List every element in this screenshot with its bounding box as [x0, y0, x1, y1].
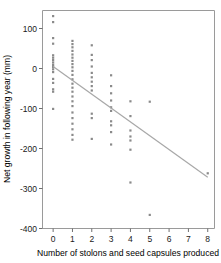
data-point [110, 131, 112, 133]
x-tick-label: 8 [205, 234, 210, 244]
data-point [52, 91, 54, 93]
data-point [129, 129, 131, 131]
y-tick-label: -200 [20, 144, 37, 154]
y-axis-title: Net growth in following year (mm) [2, 55, 12, 183]
data-point [71, 53, 73, 55]
data-point [71, 123, 73, 125]
x-tick-label: 3 [109, 234, 114, 244]
data-point [71, 57, 73, 59]
data-point [52, 71, 54, 73]
data-point [91, 72, 93, 74]
data-point [91, 117, 93, 119]
data-point [129, 181, 131, 183]
data-point [52, 78, 54, 80]
data-point [71, 128, 73, 130]
x-tick-label: 7 [186, 234, 191, 244]
data-point [52, 59, 54, 61]
data-point [91, 89, 93, 91]
data-point [91, 44, 93, 46]
x-tick-label: 4 [128, 234, 133, 244]
x-tick-label: 6 [167, 234, 172, 244]
data-point [71, 111, 73, 113]
x-axis-title: Number of stolons and seed capsules prod… [37, 248, 219, 258]
data-point [91, 59, 93, 61]
data-point [129, 135, 131, 137]
data-point [71, 95, 73, 97]
y-axis-ticks: 1000-100-200-300-400 [20, 24, 43, 234]
data-point [71, 117, 73, 119]
data-point [52, 68, 54, 70]
data-point [71, 46, 73, 48]
data-point [52, 15, 54, 17]
data-point [52, 108, 54, 110]
plot-canvas: 1000-100-200-300-400 012345678 Number of… [0, 0, 221, 263]
data-point [52, 54, 54, 56]
y-tick-label: -400 [20, 224, 37, 234]
data-point [149, 101, 151, 103]
data-point [52, 21, 54, 23]
y-tick-label: 100 [23, 24, 37, 34]
data-point [110, 110, 112, 112]
x-axis-ticks: 012345678 [51, 229, 211, 244]
axes-frame [43, 11, 215, 229]
data-point [149, 214, 151, 216]
y-tick-label: 0 [32, 64, 37, 74]
data-point [110, 99, 112, 101]
data-point [129, 100, 131, 102]
data-point [71, 74, 73, 76]
data-point [91, 113, 93, 115]
data-point [110, 92, 112, 94]
data-point [71, 105, 73, 107]
data-point [52, 82, 54, 84]
x-tick-label: 5 [147, 234, 152, 244]
data-point [110, 74, 112, 76]
data-point [71, 91, 73, 93]
data-point [91, 54, 93, 56]
data-point [110, 143, 112, 145]
data-point [91, 85, 93, 87]
data-point [91, 65, 93, 67]
data-point [71, 43, 73, 45]
data-point [71, 50, 73, 52]
data-point [71, 60, 73, 62]
data-point [129, 139, 131, 141]
data-point [71, 100, 73, 102]
y-tick-label: -300 [20, 184, 37, 194]
data-point [71, 63, 73, 65]
data-point [52, 61, 54, 63]
x-tick-label: 2 [89, 234, 94, 244]
x-tick-label: 1 [70, 234, 75, 244]
data-point [52, 57, 54, 59]
data-point [71, 83, 73, 85]
data-point [91, 138, 93, 140]
data-point [110, 120, 112, 122]
data-point [71, 70, 73, 72]
data-point [207, 172, 209, 174]
y-tick-label: -100 [20, 104, 37, 114]
data-point [71, 40, 73, 42]
data-point [52, 88, 54, 90]
regression-line-layer [53, 67, 208, 178]
data-point [91, 76, 93, 78]
data-point [71, 87, 73, 89]
data-point [91, 81, 93, 83]
data-point [71, 134, 73, 136]
regression-line [53, 67, 208, 178]
data-point [129, 149, 131, 151]
data-point [110, 85, 112, 87]
data-point [52, 43, 54, 45]
data-point [52, 64, 54, 66]
data-point [71, 66, 73, 68]
data-point [71, 139, 73, 141]
scatter-plot-figure: 1000-100-200-300-400 012345678 Number of… [0, 0, 221, 263]
data-points-layer [52, 15, 209, 216]
x-tick-label: 0 [51, 234, 56, 244]
data-point [110, 124, 112, 126]
data-point [52, 37, 54, 39]
data-point [129, 115, 131, 117]
